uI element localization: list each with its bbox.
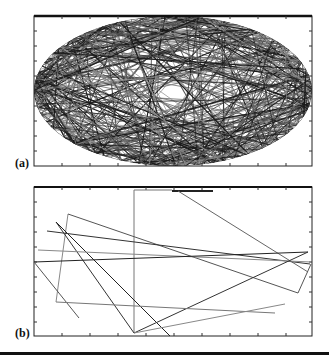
figure-canvas — [0, 0, 329, 362]
panel-b-trajectory — [34, 190, 311, 336]
panel-b — [34, 187, 312, 336]
panel-a-label: (a) — [15, 156, 29, 171]
bottom-rule — [0, 352, 329, 355]
panel-a — [34, 16, 312, 166]
panel-a-trajectory — [34, 16, 312, 166]
panel-b-label: (b) — [15, 326, 30, 341]
